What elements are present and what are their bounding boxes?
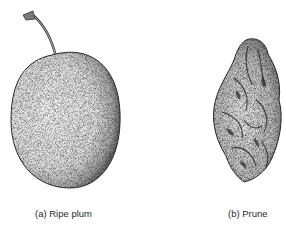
prune-illustration bbox=[214, 39, 282, 182]
plum-illustration bbox=[11, 11, 120, 188]
figure: (a) Ripe plum (b) Prune bbox=[0, 0, 286, 233]
figure-illustrations bbox=[0, 0, 286, 233]
caption-ripe-plum: (a) Ripe plum bbox=[35, 208, 92, 219]
caption-prune: (b) Prune bbox=[228, 208, 268, 219]
